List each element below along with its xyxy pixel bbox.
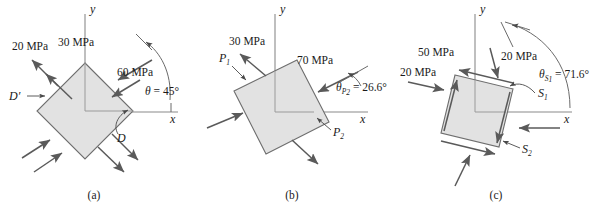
- panel-c-angle-arc-head: [512, 25, 530, 30]
- panel-b: y x O 30 MPa 70 MPa P1 P2 θP2 = 26.6° (b…: [207, 2, 387, 202]
- panel-a-label-30mpa: 30 MPa: [58, 36, 94, 48]
- panel-b-label-p1: P1: [218, 51, 230, 67]
- panel-c-stress-element: [441, 75, 513, 147]
- panel-b-arrow-30-b: [292, 140, 318, 164]
- panel-a-caption: (a): [88, 189, 101, 202]
- stress-element-figure: y x O 20 MPa 60 MPa 30 MPa D′ D θ: [0, 0, 601, 209]
- panel-a-label-20mpa: 20 MPa: [12, 40, 48, 52]
- panel-c-arrow-20-bottom: [455, 155, 470, 186]
- panel-c-caption: (c): [490, 189, 503, 202]
- panel-b-angle-ray: [340, 66, 368, 82]
- panel-c-label-20mpa-top: 20 MPa: [501, 50, 537, 62]
- panel-c-angle-label: θS1 = 71.6°: [539, 68, 590, 84]
- panel-b-label-70mpa: 70 MPa: [297, 54, 333, 66]
- panel-a-angle-ray: [136, 34, 152, 50]
- panel-b-stress-element: [234, 60, 329, 154]
- panel-c-leader-s2: [503, 141, 520, 148]
- panel-b-leader-p1: [232, 66, 246, 80]
- panel-b-label-p2: P2: [332, 125, 344, 141]
- panel-c-arrow-20-top: [490, 48, 498, 78]
- panel-a-arrow-60-ll-b: [34, 153, 62, 172]
- panel-b-angle-label: θP2 = 26.6°: [336, 81, 387, 97]
- panel-a-label-60mpa: 60 MPa: [117, 66, 153, 78]
- panel-a-arrow-60-ll-a: [22, 140, 50, 158]
- panel-c-y-axis-label: y: [479, 2, 486, 16]
- panel-a-y-axis-label: y: [89, 2, 96, 16]
- panel-c-arrow-20-left: [408, 82, 444, 90]
- panel-b-label-30mpa: 30 MPa: [229, 35, 265, 47]
- panel-b-x-axis-label: x: [359, 112, 366, 126]
- panel-c-x-axis-label: x: [563, 112, 570, 126]
- panel-b-y-axis-label: y: [279, 2, 286, 16]
- panel-c-label-s2: S2: [522, 142, 532, 158]
- panel-a-angle-label: θ = 45°: [145, 85, 179, 97]
- panel-a: y x O 20 MPa 60 MPa 30 MPa D′ D θ: [8, 2, 179, 202]
- panel-c-angle-ray: [501, 22, 513, 47]
- panel-a-x-axis-label: x: [169, 112, 176, 126]
- panel-c-label-20mpa-left: 20 MPa: [400, 66, 436, 78]
- panel-c-label-50mpa: 50 MPa: [418, 46, 454, 58]
- panel-c-label-s1: S1: [538, 86, 548, 102]
- panel-c-leader-s1: [510, 84, 535, 93]
- panel-b-arrow-30-a: [240, 54, 266, 76]
- panel-a-arrow-20-lr-b: [98, 147, 124, 172]
- panel-a-label-d-prime: D′: [8, 89, 21, 103]
- panel-b-caption: (b): [285, 189, 299, 202]
- panel-c: y x O 50 MPa 20 MPa 20 MPa S1 S2: [400, 2, 590, 202]
- panel-a-arrow-60-inner: [112, 80, 140, 97]
- panel-b-arrow-70-b: [207, 113, 243, 128]
